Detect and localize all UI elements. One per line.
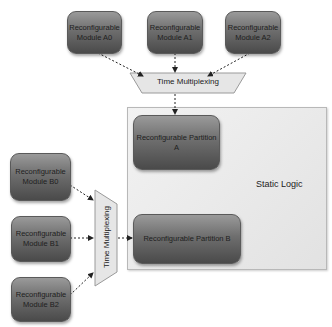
time-multiplexing-left-label: Time Multiplexing [102, 206, 111, 268]
module-a2: Reconfigurable Module A2 [225, 11, 281, 54]
partition-b: Reconfigurable Partition B [133, 214, 241, 264]
module-a0: Reconfigurable Module A0 [67, 11, 122, 54]
module-b0: Reconfigurable Module B0 [10, 153, 71, 201]
module-b1: Reconfigurable Module B1 [11, 216, 71, 262]
partition-a: Reconfigurable Partition A [133, 115, 220, 170]
module-b2: Reconfigurable Module B2 [11, 277, 71, 322]
module-a1: Reconfigurable Module A1 [147, 11, 203, 54]
time-multiplexing-top-label: Time Multiplexing [130, 77, 246, 86]
